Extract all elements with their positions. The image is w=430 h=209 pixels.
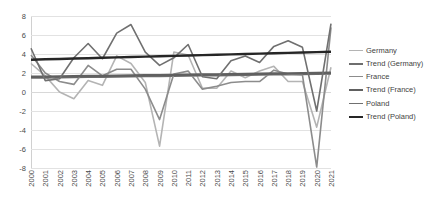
x-axis: 2000200120022003200420052006200720082009… <box>31 170 331 209</box>
series-layer <box>31 16 331 168</box>
y-tick-label-0: 0 <box>22 88 26 97</box>
y-tick-label--6: -6 <box>19 145 26 154</box>
x-tick-label-2009: 2009 <box>156 170 165 187</box>
x-tick-label-2019: 2019 <box>298 170 307 187</box>
x-tick-label-2020: 2020 <box>313 170 322 187</box>
legend-item-poland[interactable]: Poland <box>349 97 430 110</box>
series-line-poland <box>31 24 331 111</box>
x-tick-label-2017: 2017 <box>270 170 279 187</box>
legend-label: Germany <box>366 47 397 55</box>
series-line-germany <box>31 52 331 146</box>
legend-label: Trend (Germany) <box>366 60 423 68</box>
legend-label: Poland <box>366 100 389 108</box>
y-tick-label-4: 4 <box>22 50 26 59</box>
legend-swatch-icon <box>349 63 363 65</box>
y-tick-label-8: 8 <box>22 12 26 21</box>
x-tick-label-2018: 2018 <box>284 170 293 187</box>
x-tick-label-2006: 2006 <box>113 170 122 187</box>
x-tick-label-2002: 2002 <box>56 170 65 187</box>
x-tick-label-2011: 2011 <box>184 170 193 186</box>
legend-item-trend-poland[interactable]: Trend (Poland) <box>349 110 430 123</box>
x-tick-label-2021: 2021 <box>327 170 336 187</box>
x-tick-label-2012: 2012 <box>198 170 207 187</box>
x-tick-label-2001: 2001 <box>41 170 50 187</box>
y-tick-label-6: 6 <box>22 31 26 40</box>
legend-item-germany[interactable]: Germany <box>349 44 430 57</box>
legend-swatch-icon <box>349 116 363 118</box>
y-tick-label--2: -2 <box>19 107 26 116</box>
legend-swatch-icon <box>349 89 363 91</box>
chart-legend: GermanyTrend (Germany)FranceTrend (Franc… <box>349 44 430 123</box>
legend-item-france[interactable]: France <box>349 70 430 83</box>
y-tick-label--4: -4 <box>19 126 26 135</box>
y-axis: 86420-2-4-6-8 <box>0 0 31 190</box>
legend-swatch-icon <box>349 50 363 51</box>
x-tick-label-2007: 2007 <box>127 170 136 187</box>
x-tick-label-2016: 2016 <box>256 170 265 187</box>
plot-area <box>31 16 331 168</box>
x-tick-label-2004: 2004 <box>84 170 93 187</box>
x-tick-label-2013: 2013 <box>213 170 222 187</box>
x-tick-label-2015: 2015 <box>241 170 250 187</box>
x-tick-label-2000: 2000 <box>27 170 36 187</box>
x-tick-label-2003: 2003 <box>70 170 79 187</box>
legend-item-trend-germany[interactable]: Trend (Germany) <box>349 57 430 70</box>
line-chart: 86420-2-4-6-8 20002001200220032004200520… <box>0 0 430 209</box>
x-tick-label-2008: 2008 <box>141 170 150 187</box>
legend-label: France <box>366 73 389 81</box>
x-tick-label-2010: 2010 <box>170 170 179 187</box>
legend-label: Trend (France) <box>366 86 416 94</box>
gridline--8 <box>31 168 331 169</box>
y-tick-label-2: 2 <box>22 69 26 78</box>
legend-label: Trend (Poland) <box>366 113 416 121</box>
legend-swatch-icon <box>349 103 363 104</box>
legend-item-trend-france[interactable]: Trend (France) <box>349 84 430 97</box>
y-tick-label--8: -8 <box>19 164 26 173</box>
x-tick-label-2005: 2005 <box>98 170 107 187</box>
legend-swatch-icon <box>349 76 363 77</box>
x-tick-label-2014: 2014 <box>227 170 236 187</box>
